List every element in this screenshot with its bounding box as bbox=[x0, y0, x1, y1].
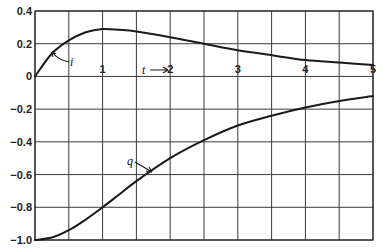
annotation-i: i bbox=[52, 52, 73, 69]
annotation-t-label: t bbox=[142, 63, 146, 77]
y-tick-label: 0 bbox=[26, 70, 32, 82]
y-tick-label: −0.8 bbox=[10, 201, 32, 213]
y-tick-label: −0.2 bbox=[10, 103, 32, 115]
annotation-q: q bbox=[127, 154, 152, 172]
x-tick-label: 4 bbox=[302, 63, 309, 75]
annotation-t-arrow bbox=[150, 67, 168, 73]
grid-lines bbox=[35, 11, 373, 240]
line-chart: 0.40.20−0.2−0.4−0.6−0.8−1.0 12345 i q t bbox=[0, 0, 382, 250]
annotation-t-axis: t bbox=[142, 63, 168, 77]
y-tick-label: 0.4 bbox=[17, 5, 33, 17]
y-tick-label: −0.4 bbox=[10, 136, 33, 148]
y-tick-label: −1.0 bbox=[10, 234, 32, 246]
annotation-q-label: q bbox=[127, 154, 133, 168]
annotation-i-label: i bbox=[70, 55, 73, 69]
x-tick-label: 1 bbox=[100, 63, 106, 75]
y-tick-label: 0.2 bbox=[17, 38, 32, 50]
y-tick-label: −0.6 bbox=[10, 169, 32, 181]
x-tick-label: 3 bbox=[235, 63, 241, 75]
y-axis-tick-labels: 0.40.20−0.2−0.4−0.6−0.8−1.0 bbox=[10, 5, 33, 246]
